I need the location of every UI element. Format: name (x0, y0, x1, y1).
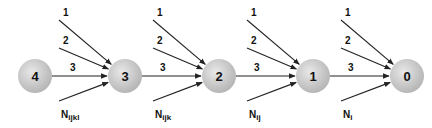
node-label: 1 (309, 69, 316, 84)
node-label: 0 (403, 69, 410, 84)
edge-label: 1 (251, 7, 257, 18)
edge-label: 2 (63, 35, 69, 46)
edge-n-to-node-0 (341, 82, 390, 101)
edge-label: 1 (345, 7, 351, 18)
edge-n-to-node-2 (153, 82, 202, 101)
edge-label: 2 (345, 35, 351, 46)
edge-label: 3 (160, 62, 166, 73)
node-label: 3 (121, 69, 128, 84)
edge-2-to-node-3 (59, 48, 108, 69)
n-label-subscript: i (350, 113, 352, 122)
n-label: Nijk (155, 109, 172, 122)
edge-n-to-node-1 (247, 82, 296, 101)
edge-label: 3 (254, 62, 260, 73)
edge-label: 1 (63, 7, 69, 18)
edge-label: 1 (157, 7, 163, 18)
n-label-subscript: ijk (162, 113, 171, 122)
n-label: Ni (343, 109, 352, 122)
n-label-subscript: ij (256, 113, 260, 122)
chain-diagram: 123Nijkl123Nijk123Nij123Ni 43210 (0, 0, 432, 128)
n-label: Nijkl (61, 109, 79, 122)
n-label: Nij (249, 109, 261, 122)
node-label: 2 (215, 69, 222, 84)
edge-label: 2 (251, 35, 257, 46)
edge-label: 3 (70, 62, 76, 73)
edge-label: 2 (157, 35, 163, 46)
edge-n-to-node-3 (59, 82, 108, 101)
node-label: 4 (31, 69, 39, 84)
edge-label: 3 (348, 62, 354, 73)
n-label-subscript: ijkl (68, 113, 79, 122)
